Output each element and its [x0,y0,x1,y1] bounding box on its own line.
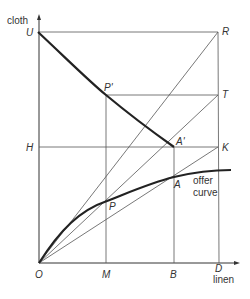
y-axis-label: cloth [7,15,28,26]
ray-O-K [39,147,218,263]
x-axis-label: linen [213,274,234,285]
point-label-P-prime: P' [104,82,114,93]
point-label-O: O [35,269,43,280]
point-label-R: R [222,26,229,37]
x-axis-arrow-icon [234,261,240,265]
point-label-U: U [26,27,34,38]
point-label-M: M [102,269,111,280]
trade-offer-curve-diagram: cloth linen U R P' T H A' K A P O M B D … [0,0,250,299]
offer-curve-label-1: offer [193,175,213,186]
point-label-K: K [222,142,230,153]
point-label-T: T [222,89,229,100]
point-label-D: D [215,263,222,274]
point-label-B: B [170,269,177,280]
line-R-D [218,32,219,263]
ray-O-T [39,95,218,263]
point-label-A: A [173,179,181,190]
point-label-A-prime: A' [175,136,186,147]
point-label-H: H [26,142,34,153]
y-axis-arrow-icon [37,14,41,20]
offer-curve-label-2: curve [193,187,218,198]
point-label-P: P [109,201,116,212]
